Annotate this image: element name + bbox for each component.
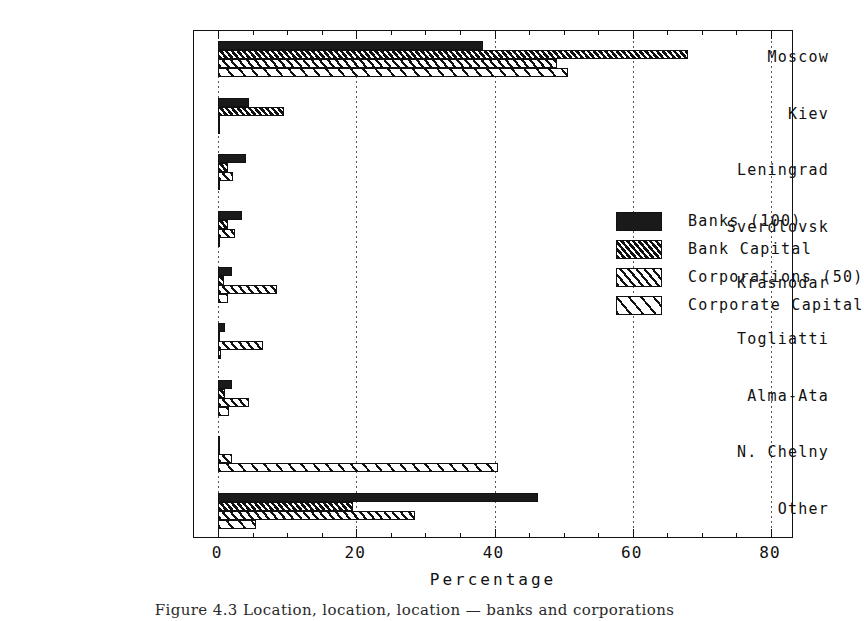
x-tick-top-55 <box>598 30 599 35</box>
bar <box>218 407 229 416</box>
bar <box>218 285 277 294</box>
x-tick-top-30 <box>425 30 426 35</box>
bar <box>218 294 228 303</box>
bar <box>218 107 284 116</box>
category-label: Sverdlovsk <box>644 218 829 236</box>
category-label: Other <box>644 500 829 518</box>
legend-item: Corporate Capital <box>616 291 864 319</box>
x-tick-top-45 <box>529 30 530 35</box>
x-tick-50 <box>564 533 565 538</box>
bar <box>218 398 249 407</box>
x-tick-top-40 <box>495 30 496 39</box>
x-tick-55 <box>598 533 599 538</box>
x-tick-label-80: 80 <box>759 543 780 562</box>
bar <box>218 511 415 520</box>
bar <box>218 154 246 163</box>
bar <box>218 238 220 247</box>
bar <box>218 220 228 229</box>
bar <box>218 59 557 68</box>
bar <box>218 493 538 502</box>
bar <box>218 341 263 350</box>
category-label: Leningrad <box>644 161 829 179</box>
x-tick-75 <box>736 533 737 538</box>
category-label: N. Chelny <box>644 443 829 461</box>
bar <box>218 389 225 398</box>
category-label: Krasnodar <box>644 274 829 292</box>
bar <box>218 445 220 454</box>
x-tick-top-15 <box>322 30 323 35</box>
bar <box>218 520 256 529</box>
bar <box>218 211 242 220</box>
x-tick-label-0: 0 <box>212 543 223 562</box>
category-label: Kiev <box>644 105 829 123</box>
x-tick-0 <box>218 529 219 538</box>
bar <box>218 229 235 238</box>
x-tick-label-40: 40 <box>483 543 504 562</box>
bar <box>218 380 232 389</box>
x-tick-top-35 <box>460 30 461 35</box>
x-tick-top-75 <box>736 30 737 35</box>
x-tick-5 <box>253 533 254 538</box>
x-tick-60 <box>633 529 634 538</box>
bar <box>218 163 228 172</box>
legend-label: Bank Capital <box>688 240 812 258</box>
bar <box>218 332 220 341</box>
bar <box>218 323 225 332</box>
x-tick-15 <box>322 533 323 538</box>
x-tick-25 <box>391 533 392 538</box>
x-tick-40 <box>495 529 496 538</box>
x-tick-top-60 <box>633 30 634 39</box>
x-tick-35 <box>460 533 461 538</box>
legend-label: Corporate Capital <box>688 296 864 314</box>
x-tick-top-0 <box>218 30 219 39</box>
bar <box>218 181 220 190</box>
x-tick-top-65 <box>667 30 668 35</box>
bar <box>218 436 220 445</box>
bar <box>218 463 498 472</box>
bar <box>218 98 249 107</box>
bar <box>218 68 568 77</box>
bar <box>218 502 353 511</box>
x-tick-30 <box>425 533 426 538</box>
bar <box>218 267 232 276</box>
bar <box>218 172 233 181</box>
figure-caption: Figure 4.3 Location, location, location … <box>0 601 829 621</box>
x-tick-top-10 <box>287 30 288 35</box>
x-tick-80 <box>771 529 772 538</box>
bar <box>218 116 220 125</box>
x-tick-top-50 <box>564 30 565 35</box>
x-tick-20 <box>356 529 357 538</box>
legend-item: Bank Capital <box>616 235 864 263</box>
x-tick-top-25 <box>391 30 392 35</box>
bar <box>218 125 220 134</box>
legend-swatch <box>616 240 662 259</box>
bar <box>218 41 483 50</box>
category-label: Moscow <box>644 48 829 66</box>
x-tick-label-20: 20 <box>345 543 366 562</box>
legend-swatch <box>616 296 662 315</box>
x-tick-10 <box>287 533 288 538</box>
x-tick-top-80 <box>771 30 772 39</box>
x-tick-top-20 <box>356 30 357 39</box>
x-tick-65 <box>667 533 668 538</box>
category-label: Togliatti <box>644 330 829 348</box>
x-tick-label-60: 60 <box>621 543 642 562</box>
bar <box>218 50 688 59</box>
bar <box>218 276 224 285</box>
x-tick-top-70 <box>702 30 703 35</box>
category-label: Alma-Ata <box>644 387 829 405</box>
bar <box>218 350 221 359</box>
x-tick-top-5 <box>253 30 254 35</box>
x-tick-45 <box>529 533 530 538</box>
x-tick-70 <box>702 533 703 538</box>
x-axis-title: Percentage <box>193 570 793 589</box>
bar <box>218 454 232 463</box>
